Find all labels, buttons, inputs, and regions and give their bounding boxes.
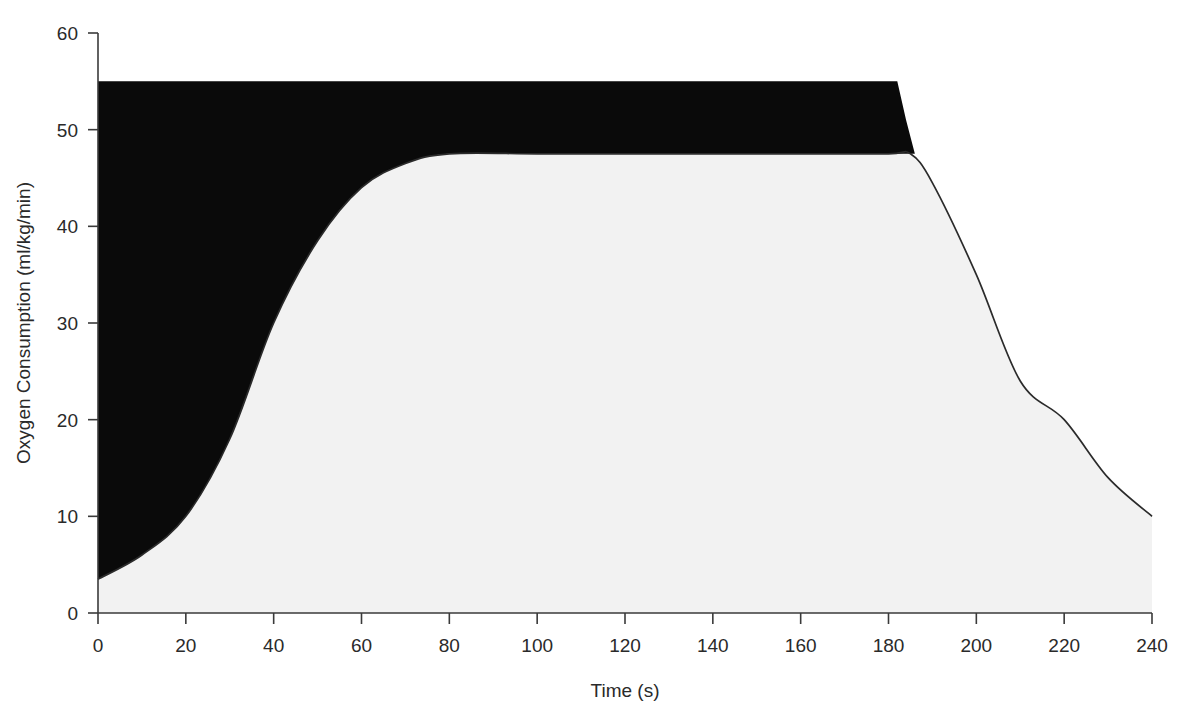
x-tick-label: 160 <box>785 635 817 656</box>
x-tick-label: 140 <box>697 635 729 656</box>
x-tick-label: 120 <box>609 635 641 656</box>
x-tick-label: 80 <box>439 635 460 656</box>
y-axis-title: Oxygen Consumption (ml/kg/min) <box>13 182 34 464</box>
plot-area <box>98 81 1152 613</box>
x-tick-label: 220 <box>1048 635 1080 656</box>
x-tick-label: 60 <box>351 635 372 656</box>
x-tick-label: 0 <box>93 635 104 656</box>
x-tick-label: 20 <box>175 635 196 656</box>
x-tick-label: 240 <box>1136 635 1168 656</box>
y-tick-label: 0 <box>67 603 78 624</box>
y-tick-label: 40 <box>57 216 78 237</box>
y-tick-label: 30 <box>57 313 78 334</box>
x-axis-ticks <box>98 613 1152 624</box>
x-tick-label: 180 <box>873 635 905 656</box>
oxygen-consumption-chart: 0102030405060 02040608010012014016018020… <box>0 0 1191 716</box>
y-tick-label: 20 <box>57 410 78 431</box>
y-axis-ticks <box>88 33 98 613</box>
x-tick-label: 200 <box>960 635 992 656</box>
y-axis-tick-labels: 0102030405060 <box>57 23 78 624</box>
x-tick-label: 40 <box>263 635 284 656</box>
x-axis-title: Time (s) <box>591 680 660 701</box>
chart-svg: 0102030405060 02040608010012014016018020… <box>0 0 1191 716</box>
y-tick-label: 50 <box>57 120 78 141</box>
x-axis-tick-labels: 020406080100120140160180200220240 <box>93 635 1168 656</box>
y-tick-label: 60 <box>57 23 78 44</box>
y-tick-label: 10 <box>57 506 78 527</box>
x-tick-label: 100 <box>521 635 553 656</box>
